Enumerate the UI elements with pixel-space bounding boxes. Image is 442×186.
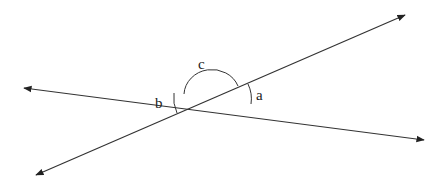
line-ascending xyxy=(36,15,405,175)
intersecting-lines-diagram: c a b xyxy=(0,0,442,186)
line-descending xyxy=(24,88,424,140)
angle-label-b: b xyxy=(155,96,163,111)
lines-drawing xyxy=(0,0,442,186)
angle-label-a: a xyxy=(256,88,263,103)
angle-b-arc xyxy=(174,93,177,113)
angle-label-c: c xyxy=(198,57,205,72)
angle-a-arc xyxy=(248,84,251,104)
